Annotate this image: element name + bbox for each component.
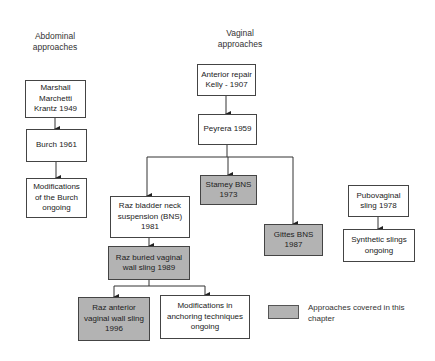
node-raz-anterior-vaginal-wall-sling: Raz anterior vaginal wall sling 1996 <box>78 297 150 341</box>
node-text: Krantz 1949 <box>34 104 77 115</box>
legend-text-line: Approaches covered in this <box>308 303 428 314</box>
node-raz-buried-vaginal-wall-sling: Raz buried vaginal wall sling 1989 <box>108 246 190 280</box>
abdominal-approaches-title: Abdominal approaches <box>26 31 84 53</box>
node-anterior-repair-kelly: Anterior repair Kelly - 1907 <box>197 64 256 96</box>
node-text: Stamey BNS <box>206 180 252 191</box>
node-text: Raz buried vaginal <box>116 253 182 264</box>
node-text: Anterior repair <box>201 70 252 81</box>
node-text: ongoing <box>33 203 80 214</box>
node-text: wall sling 1989 <box>116 263 182 274</box>
node-text: vaginal wall sling <box>84 314 144 325</box>
node-text: sling 1978 <box>356 201 400 212</box>
node-raz-bladder-neck-suspension: Raz bladder neck suspension (BNS) 1981 <box>110 196 190 238</box>
node-pubovaginal-sling: Pubovaginal sling 1978 <box>348 185 409 217</box>
node-burch: Burch 1961 <box>26 129 87 162</box>
node-text: Marshall <box>34 83 77 94</box>
node-text: suspension (BNS) <box>118 212 182 223</box>
node-text: Modifications in <box>167 301 243 312</box>
node-text: Marchetti <box>34 94 77 105</box>
vaginal-approaches-title: Vaginal approaches <box>211 28 269 50</box>
node-text: Synthetic slings <box>351 235 407 246</box>
title-line: Abdominal <box>26 31 84 42</box>
node-synthetic-slings: Synthetic slings ongoing <box>343 229 415 262</box>
node-text: Peyrera 1959 <box>203 124 251 135</box>
node-text: ongoing <box>351 246 407 257</box>
node-marshall-marchetti-krantz: Marshall Marchetti Krantz 1949 <box>25 80 86 118</box>
node-text: Pubovaginal <box>356 191 400 202</box>
node-text: Raz bladder neck <box>118 201 182 212</box>
title-line: approaches <box>211 39 269 50</box>
legend-text-line: chapter <box>308 314 428 325</box>
title-line: approaches <box>26 42 84 53</box>
node-text: anchoring techniques <box>167 312 243 323</box>
node-text: Raz anterior <box>84 303 144 314</box>
title-line: Vaginal <box>211 28 269 39</box>
node-peyrera: Peyrera 1959 <box>198 114 257 145</box>
node-text: Burch 1961 <box>36 140 77 151</box>
node-text: 1987 <box>274 240 314 251</box>
node-burch-modifications: Modifications of the Burch ongoing <box>26 178 87 218</box>
node-anchoring-modifications: Modifications in anchoring techniques on… <box>160 295 250 339</box>
node-text: ongoing <box>167 322 243 333</box>
node-text: 1973 <box>206 190 252 201</box>
node-text: Kelly - 1907 <box>201 80 252 91</box>
node-text: Modifications <box>33 182 80 193</box>
node-text: 1981 <box>118 222 182 233</box>
node-text: 1996 <box>84 324 144 335</box>
node-text: of the Burch <box>33 193 80 204</box>
legend-swatch <box>268 305 299 319</box>
node-gittes-bns: Gittes BNS 1987 <box>264 224 323 256</box>
node-stamey-bns: Stamey BNS 1973 <box>200 175 257 205</box>
legend-label: Approaches covered in this chapter <box>308 303 428 324</box>
node-text: Gittes BNS <box>274 230 314 241</box>
